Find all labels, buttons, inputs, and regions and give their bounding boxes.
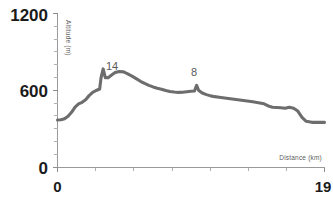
elevation-profile-chart: 1200 600 0 0 19 Altitude (m) Distance (k… bbox=[0, 0, 333, 204]
annotation-bump-8: 8 bbox=[191, 66, 197, 78]
y-axis-title: Altitude (m) bbox=[64, 20, 72, 56]
x-axis-label-19: 19 bbox=[315, 178, 332, 195]
chart-canvas: 1200 600 0 0 19 Altitude (m) Distance (k… bbox=[0, 0, 333, 204]
x-axis-title: Distance (km) bbox=[279, 154, 322, 162]
annotation-peak-14: 14 bbox=[106, 60, 118, 72]
x-axis-minor-ticks bbox=[96, 168, 287, 172]
x-axis-label-0: 0 bbox=[53, 178, 61, 195]
y-axis-label-600: 600 bbox=[20, 82, 48, 101]
y-axis-label-0: 0 bbox=[39, 159, 48, 178]
y-axis-label-1200: 1200 bbox=[10, 6, 48, 25]
x-axis-major-ticks bbox=[58, 168, 325, 173]
y-axis-major-ticks bbox=[53, 14, 58, 168]
